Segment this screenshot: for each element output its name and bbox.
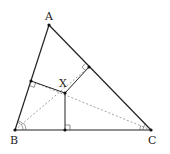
foot-ac [87,65,90,68]
angle-arc-b-2 [23,123,26,130]
foot-ab [29,79,32,82]
point-c [149,128,152,131]
point-x [63,91,66,94]
triangle-diagram: A X B C [0,0,170,154]
bisector-b [15,67,89,130]
label-b: B [10,134,18,147]
point-a [47,23,50,26]
bisector-c [31,81,151,130]
angle-arc-c-2 [140,126,141,131]
right-angle-mark-ac [82,63,86,70]
side-ab [15,25,49,130]
foot-bc [63,128,66,131]
label-c: C [148,134,156,147]
angle-arc-b-3 [18,121,23,124]
point-b [13,128,16,131]
perp-to-ac [65,67,89,93]
label-a: A [44,10,54,23]
label-x: X [59,77,67,90]
